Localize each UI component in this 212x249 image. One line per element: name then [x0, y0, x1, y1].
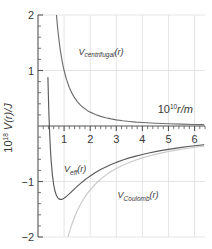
y-tick-label: 2 [28, 9, 34, 21]
curve-label-coulomb: VCoulomb(r) [118, 190, 159, 202]
curve-label-eff: Veff(r) [64, 164, 86, 176]
y-axis-label: 1018 V(r)/J [2, 103, 14, 153]
svg-text:1018 V(r)/J: 1018 V(r)/J [2, 103, 14, 153]
y-tick-label: −2 [21, 231, 34, 243]
chart-figure: 21−1−2123456 1018 V(r)/J 1010r/m Vcentri… [0, 0, 212, 249]
curve-v-effr [48, 78, 204, 200]
x-tick-label: 6 [192, 133, 198, 145]
x-tick-label: 3 [113, 133, 119, 145]
svg-text:1010r/m: 1010r/m [158, 103, 193, 115]
x-tick-label: 2 [87, 133, 93, 145]
x-tick-label: 1 [61, 133, 67, 145]
y-tick-label: −1 [21, 176, 34, 188]
x-axis-label: 1010r/m [158, 103, 193, 115]
curves [48, 13, 204, 237]
curve-label-centrifugal: Vcentrifugal(r) [78, 47, 123, 60]
x-tick-label: 5 [165, 133, 171, 145]
x-tick-label: 4 [139, 133, 145, 145]
curve-v-coulombr [68, 146, 204, 237]
y-tick-label: 1 [28, 65, 34, 77]
potential-energy-chart: 21−1−2123456 1018 V(r)/J 1010r/m Vcentri… [0, 0, 212, 249]
